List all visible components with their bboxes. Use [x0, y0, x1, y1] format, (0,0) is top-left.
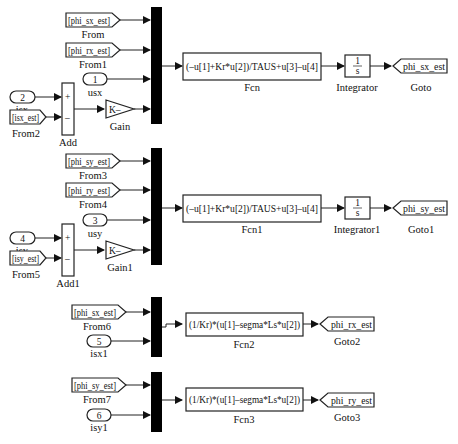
- fcn2-block[interactable]: (1/Kr)*(u[1]–segma*Ls*u[2]): [186, 313, 303, 336]
- fcn1-label: Fcn1: [242, 224, 263, 235]
- from-block[interactable]: [phi_sx_est]: [66, 13, 120, 27]
- from4-tag: [phi_ry_est]: [68, 186, 110, 196]
- fcn1-block[interactable]: (–u[1]+Kr*u[2])/TAUS+u[3]–u[4]: [183, 195, 321, 222]
- inport-isx1-label: isx1: [90, 348, 108, 359]
- from3-block[interactable]: [phi_sy_est]: [66, 154, 120, 168]
- fcn-expression: (–u[1]+Kr*u[2])/TAUS+u[3]–u[4]: [186, 204, 318, 215]
- integrator1-block[interactable]: 1 s: [345, 197, 370, 219]
- signal-line: [162, 324, 182, 327]
- from3-tag: [phi_sy_est]: [68, 157, 110, 167]
- goto2-block[interactable]: phi_rx_est: [320, 317, 374, 331]
- add-block[interactable]: + –: [62, 83, 74, 135]
- from5-label: From5: [12, 269, 40, 280]
- gain1-label: Gain1: [107, 262, 133, 273]
- inport-usx-label: usx: [88, 87, 103, 98]
- plus-sign: +: [65, 233, 70, 243]
- inport-number: 5: [97, 337, 102, 347]
- mux2-block[interactable]: [151, 297, 162, 357]
- goto-tag: phi_sy_est: [403, 204, 445, 214]
- from5-tag: [isy_est]: [12, 254, 39, 264]
- simulink-canvas: [phi_sx_est] From [phi_rx_est] From1 1 u…: [0, 0, 458, 444]
- from6-label: From6: [83, 321, 111, 332]
- subsystem-flux-ry: [phi_sy_est] From7 6 isy1 (1/Kr)*(u[1]–s…: [72, 372, 374, 433]
- goto3-label: Goto3: [334, 412, 360, 423]
- from-tag: [phi_sx_est]: [68, 16, 110, 26]
- from3-label: From3: [79, 170, 107, 181]
- inport-usy-label: usy: [88, 228, 103, 239]
- fcn-label: Fcn: [244, 82, 261, 93]
- inport-isy1[interactable]: 6: [87, 409, 111, 421]
- inport-isy1-label: isy1: [90, 422, 108, 433]
- gain1-block[interactable]: K–: [106, 241, 134, 259]
- inport-number: 2: [20, 93, 25, 103]
- goto-tag: phi_ry_est: [331, 396, 372, 406]
- minus-sign: –: [64, 113, 70, 123]
- goto1-block[interactable]: phi_sy_est: [393, 201, 447, 215]
- from1-label: From1: [79, 59, 107, 70]
- gain-value: K–: [109, 105, 121, 115]
- inport-number: 4: [20, 234, 25, 244]
- fcn-expression: (1/Kr)*(u[1]–segma*Ls*u[2]): [189, 395, 300, 406]
- from2-tag: [isx_est]: [12, 113, 39, 123]
- inport-isx[interactable]: 2: [10, 91, 35, 103]
- fcn-expression: (1/Kr)*(u[1]–segma*Ls*u[2]): [189, 320, 300, 331]
- from7-block[interactable]: [phi_sy_est]: [72, 378, 126, 392]
- from-label: From: [82, 29, 105, 40]
- subsystem-flux-sy: [phi_sy_est] From3 [phi_ry_est] From4 3 …: [10, 148, 447, 289]
- integrator-den: s: [356, 66, 360, 76]
- goto-tag: phi_rx_est: [331, 320, 372, 330]
- subsystem-flux-rx: [phi_sx_est] From6 5 isx1 (1/Kr)*(u[1]–s…: [72, 297, 374, 359]
- gain-label: Gain: [110, 121, 131, 132]
- gain-block[interactable]: K–: [106, 100, 134, 118]
- subsystem-flux-sx: [phi_sx_est] From [phi_rx_est] From1 1 u…: [10, 7, 447, 148]
- goto2-label: Goto2: [334, 336, 360, 347]
- goto-label: Goto: [411, 82, 432, 93]
- plus-sign: +: [65, 92, 70, 102]
- gain-value: K–: [109, 246, 121, 256]
- inport-number: 1: [93, 75, 98, 85]
- fcn-block[interactable]: (–u[1]+Kr*u[2])/TAUS+u[3]–u[4]: [183, 53, 321, 80]
- from4-label: From4: [79, 199, 108, 210]
- from1-block[interactable]: [phi_rx_est]: [66, 43, 120, 57]
- goto1-label: Goto1: [408, 224, 434, 235]
- from4-block[interactable]: [phi_ry_est]: [66, 183, 120, 197]
- from7-label: From7: [83, 394, 111, 405]
- inport-usy[interactable]: 3: [83, 214, 107, 226]
- integrator-block[interactable]: 1 s: [345, 55, 370, 77]
- mux3-block[interactable]: [151, 372, 162, 432]
- integrator-den: s: [356, 208, 360, 218]
- inport-isx1[interactable]: 5: [87, 335, 111, 347]
- fcn3-block[interactable]: (1/Kr)*(u[1]–segma*Ls*u[2]): [186, 388, 303, 411]
- fcn-expression: (–u[1]+Kr*u[2])/TAUS+u[3]–u[4]: [186, 62, 318, 73]
- mux1-block[interactable]: [151, 148, 162, 265]
- add1-label: Add1: [56, 278, 79, 289]
- from7-tag: [phi_sy_est]: [74, 381, 116, 391]
- integrator-num: 1: [355, 56, 360, 66]
- add-label: Add: [59, 137, 78, 148]
- from2-label: From2: [12, 128, 40, 139]
- inport-number: 6: [97, 411, 102, 421]
- integrator-num: 1: [355, 198, 360, 208]
- add1-block[interactable]: + –: [62, 224, 74, 276]
- mux-block[interactable]: [151, 7, 162, 124]
- inport-usx[interactable]: 1: [83, 73, 107, 85]
- inport-isy[interactable]: 4: [10, 232, 35, 244]
- integrator1-label: Integrator1: [334, 224, 381, 235]
- fcn2-label: Fcn2: [234, 339, 255, 350]
- from2-block[interactable]: [isx_est]: [10, 110, 46, 124]
- integrator-label: Integrator: [336, 82, 378, 93]
- from6-tag: [phi_sx_est]: [74, 308, 116, 318]
- fcn3-label: Fcn3: [234, 414, 255, 425]
- goto-tag: phi_sx_est: [403, 62, 445, 72]
- minus-sign: –: [64, 254, 70, 264]
- inport-number: 3: [93, 216, 98, 226]
- from5-block[interactable]: [isy_est]: [10, 251, 46, 265]
- goto-block[interactable]: phi_sx_est: [393, 59, 447, 73]
- from6-block[interactable]: [phi_sx_est]: [72, 305, 126, 319]
- goto3-block[interactable]: phi_ry_est: [320, 393, 374, 407]
- from1-tag: [phi_rx_est]: [68, 46, 110, 56]
